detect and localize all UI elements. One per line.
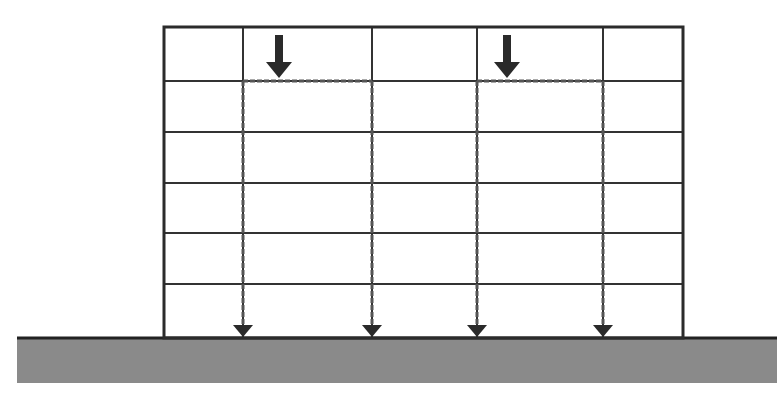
load-path-lines	[243, 81, 603, 326]
arrow-head	[266, 62, 292, 78]
down-arrowhead-icon	[467, 325, 487, 337]
ground-slab	[17, 338, 777, 383]
down-arrow-icon	[266, 35, 292, 78]
arrow-head	[494, 62, 520, 78]
down-arrowhead-icon	[593, 325, 613, 337]
structural-load-diagram	[0, 0, 777, 393]
down-arrowhead-icon	[233, 325, 253, 337]
down-arrowhead-icon	[362, 325, 382, 337]
arrow-shaft	[275, 35, 283, 63]
ground	[17, 338, 777, 383]
down-arrow-icon	[494, 35, 520, 78]
arrow-shaft	[503, 35, 511, 63]
